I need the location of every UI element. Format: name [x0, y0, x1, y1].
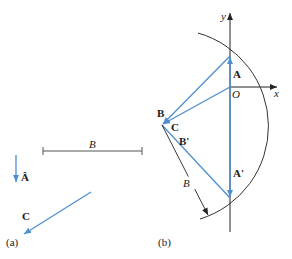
- unit-vector-a-label: Â: [21, 171, 29, 183]
- vector-c-label-b: C: [171, 121, 179, 133]
- vector-c-arrow-b: [163, 87, 230, 124]
- circle-arc: [198, 33, 268, 219]
- vector-b-to-top: [163, 56, 230, 124]
- panel-a: Â B C (a): [6, 138, 142, 249]
- origin-label: O: [232, 88, 240, 100]
- segment-b-label: B: [89, 138, 96, 150]
- point-b-label: B: [157, 107, 165, 119]
- radius-b-label: B: [183, 177, 190, 189]
- vector-b-prime-label: B': [179, 135, 189, 147]
- vector-a-label: A: [233, 68, 241, 80]
- vector-b-prime-line: [162, 125, 230, 198]
- vector-c-arrow: [24, 192, 91, 234]
- caption-a: (a): [6, 236, 19, 249]
- panel-b: y x O A A' B B C B' (b): [157, 10, 279, 249]
- vector-c-label: C: [22, 210, 30, 222]
- vector-diagram: Â B C (a) y x O A A' B B C B: [0, 0, 292, 259]
- y-axis-label: y: [220, 10, 226, 22]
- vector-a-prime-label: A': [233, 167, 244, 179]
- x-axis-label: x: [273, 87, 279, 99]
- caption-b: (b): [158, 236, 171, 249]
